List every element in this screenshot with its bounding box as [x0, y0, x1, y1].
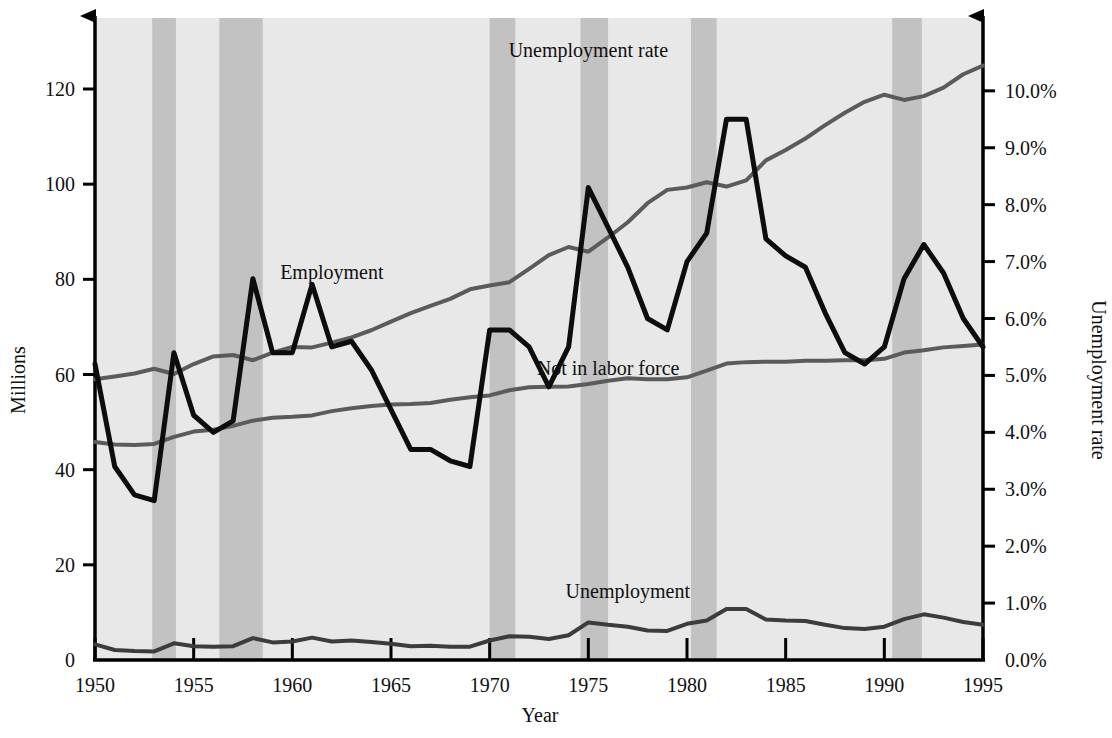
recession-band-4: [691, 18, 717, 660]
recession-band-3: [580, 18, 608, 660]
y-right-tick-label: 7.0%: [1005, 251, 1047, 273]
series-label-unemployment-rate: Unemployment rate: [509, 39, 669, 62]
recession-band-0: [152, 18, 176, 660]
y-left-tick-label: 100: [45, 173, 75, 195]
x-tick-label: 1960: [272, 674, 312, 696]
y-left-tick-label: 80: [55, 268, 75, 290]
y-left-tick-label: 40: [55, 459, 75, 481]
y-axis-right-title: Unemployment rate: [1087, 300, 1110, 460]
series-label-not-in-labor-force: Not in labor force: [537, 357, 680, 379]
recession-band-1: [219, 18, 262, 660]
x-axis-title: Year: [522, 704, 559, 726]
recession-band-2: [490, 18, 516, 660]
x-axis-tick-labels: 1950195519601965197019751980198519901995: [75, 674, 1003, 696]
x-tick-label: 1965: [371, 674, 411, 696]
x-tick-label: 1950: [75, 674, 115, 696]
y-left-tick-label: 120: [45, 78, 75, 100]
y-left-tick-label: 0: [65, 649, 75, 671]
series-label-unemployment: Unemployment: [566, 580, 691, 603]
labor-market-line-chart: 1950195519601965197019751980198519901995…: [0, 0, 1112, 738]
y-left-tick-label: 60: [55, 364, 75, 386]
y-right-tick-label: 3.0%: [1005, 478, 1047, 500]
y-right-tick-label: 8.0%: [1005, 194, 1047, 216]
recession-band-5: [892, 18, 922, 660]
chart-figure: 1950195519601965197019751980198519901995…: [0, 0, 1112, 738]
x-tick-label: 1985: [766, 674, 806, 696]
x-tick-label: 1955: [174, 674, 214, 696]
y-right-tick-label: 10.0%: [1005, 80, 1057, 102]
x-tick-label: 1990: [864, 674, 904, 696]
y-axis-left-tick-labels: 020406080100120: [45, 78, 75, 671]
y-right-tick-label: 4.0%: [1005, 421, 1047, 443]
x-tick-label: 1970: [470, 674, 510, 696]
x-tick-label: 1995: [963, 674, 1003, 696]
x-tick-label: 1975: [568, 674, 608, 696]
y-left-tick-label: 20: [55, 554, 75, 576]
y-axis-right-tick-labels: 0.0%1.0%2.0%3.0%4.0%5.0%6.0%7.0%8.0%9.0%…: [1005, 80, 1057, 671]
y-right-tick-label: 0.0%: [1005, 649, 1047, 671]
y-right-tick-label: 1.0%: [1005, 592, 1047, 614]
y-right-tick-label: 9.0%: [1005, 137, 1047, 159]
y-right-tick-label: 6.0%: [1005, 308, 1047, 330]
x-tick-label: 1980: [667, 674, 707, 696]
y-right-tick-label: 2.0%: [1005, 535, 1047, 557]
series-label-employment: Employment: [280, 261, 384, 284]
y-right-tick-label: 5.0%: [1005, 364, 1047, 386]
y-axis-left-title: Millions: [7, 346, 29, 414]
